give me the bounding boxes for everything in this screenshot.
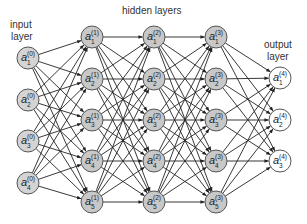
input-layer-label-line2: layer — [11, 31, 33, 42]
neuron-superscript: (0) — [27, 50, 35, 58]
neuron-subscript: 2 — [279, 121, 283, 128]
node-hidden-3-3: a3(3) — [205, 109, 227, 131]
neuron-superscript: (0) — [27, 92, 35, 100]
neuron-subscript: 1 — [153, 38, 157, 45]
node-input-4: a4(0) — [17, 172, 39, 194]
neuron-subscript: 1 — [279, 79, 283, 86]
neuron-superscript: (2) — [153, 112, 161, 120]
neuron-subscript: 3 — [279, 162, 283, 169]
node-hidden-1-3: a3(1) — [81, 109, 103, 131]
neuron-subscript: 4 — [215, 162, 219, 169]
node-input-1: a1(0) — [17, 47, 39, 69]
neuron-subscript: 2 — [215, 80, 219, 87]
node-hidden-2-2: a2(2) — [143, 68, 165, 90]
neuron-subscript: 1 — [91, 38, 95, 45]
node-hidden-3-5: a5(3) — [205, 191, 227, 213]
neuron-subscript: 2 — [27, 101, 31, 108]
edge-input-4-to-hidden-1-2 — [34, 89, 86, 174]
nodes-group: a1(0)a2(0)a3(0)a4(0)a1(1)a2(1)a3(1)a4(1)… — [17, 26, 291, 213]
node-hidden-2-4: a4(2) — [143, 150, 165, 172]
neuron-superscript: (1) — [91, 71, 99, 79]
neuron-superscript: (2) — [153, 153, 161, 161]
neuron-superscript: (1) — [91, 153, 99, 161]
neuron-subscript: 3 — [91, 121, 95, 128]
edge-input-2-to-hidden-1-1 — [36, 45, 84, 92]
neuron-superscript: (2) — [153, 71, 161, 79]
node-input-2: a2(0) — [17, 89, 39, 111]
neuron-superscript: (1) — [91, 29, 99, 37]
hidden-layers-label: hidden layers — [122, 5, 181, 16]
neuron-superscript: (1) — [91, 112, 99, 120]
node-hidden-1-2: a2(1) — [81, 68, 103, 90]
neuron-subscript: 4 — [27, 184, 31, 191]
node-hidden-1-4: a4(1) — [81, 150, 103, 172]
node-output-1: a1(4) — [269, 67, 291, 89]
node-hidden-2-1: a1(2) — [143, 26, 165, 48]
neuron-superscript: (3) — [215, 153, 223, 161]
neuron-subscript: 4 — [91, 162, 95, 169]
node-hidden-1-1: a1(1) — [81, 26, 103, 48]
node-hidden-3-2: a2(3) — [205, 68, 227, 90]
neuron-superscript: (3) — [215, 194, 223, 202]
edge-hidden-3-5-to-output-1 — [221, 88, 275, 192]
neuron-superscript: (4) — [279, 112, 287, 120]
node-input-3: a3(0) — [17, 130, 39, 152]
neuron-superscript: (0) — [27, 175, 35, 183]
neuron-subscript: 3 — [215, 121, 219, 128]
node-output-3: a3(4) — [269, 150, 291, 172]
node-hidden-2-5: a5(2) — [143, 191, 165, 213]
edge-input-4-to-hidden-1-5 — [39, 186, 82, 199]
node-output-2: a2(4) — [269, 109, 291, 131]
neuron-subscript: 2 — [91, 80, 95, 87]
neuron-superscript: (3) — [215, 71, 223, 79]
edge-input-4-to-hidden-1-1 — [32, 48, 87, 173]
node-hidden-1-5: a5(1) — [81, 191, 103, 213]
neuron-subscript: 5 — [91, 203, 95, 210]
neural-network-diagram: input layer hidden layers output layer a… — [0, 0, 307, 224]
neuron-superscript: (3) — [215, 29, 223, 37]
neuron-subscript: 3 — [27, 142, 31, 149]
neuron-subscript: 5 — [153, 203, 157, 210]
neuron-superscript: (2) — [153, 29, 161, 37]
neuron-superscript: (3) — [215, 112, 223, 120]
neuron-superscript: (2) — [153, 194, 161, 202]
neuron-subscript: 5 — [215, 203, 219, 210]
node-hidden-2-3: a3(2) — [143, 109, 165, 131]
neuron-subscript: 2 — [153, 80, 157, 87]
neuron-subscript: 1 — [27, 59, 31, 66]
output-layer-label-line2: layer — [267, 51, 289, 62]
neuron-subscript: 3 — [153, 121, 157, 128]
neuron-superscript: (4) — [279, 153, 287, 161]
neuron-superscript: (4) — [279, 70, 287, 78]
neuron-superscript: (1) — [91, 194, 99, 202]
output-layer-label-line1: output — [264, 39, 292, 50]
edge-hidden-3-2-to-output-1 — [227, 78, 269, 79]
edge-input-1-to-hidden-1-1 — [39, 41, 82, 55]
neuron-subscript: 4 — [153, 162, 157, 169]
neuron-subscript: 1 — [215, 38, 219, 45]
neuron-superscript: (0) — [27, 133, 35, 141]
node-hidden-3-4: a4(3) — [205, 150, 227, 172]
input-layer-label-line1: input — [10, 19, 32, 30]
node-hidden-3-1: a1(3) — [205, 26, 227, 48]
